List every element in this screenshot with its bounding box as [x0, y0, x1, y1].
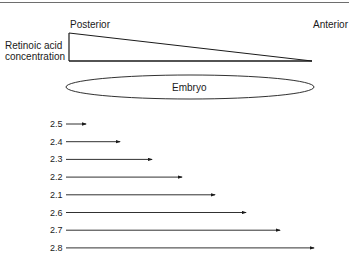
arrow-label: 2.1	[50, 190, 63, 200]
arrow-label: 2.5	[50, 119, 63, 129]
arrow-label: 2.4	[50, 137, 63, 147]
arrow-label: 2.6	[50, 208, 63, 218]
arrow-group	[66, 124, 314, 248]
arrow-label: 2.8	[50, 243, 63, 253]
embryo-label: Embryo	[172, 82, 206, 94]
arrow-label: 2.7	[50, 225, 63, 235]
arrow-label: 2.2	[50, 172, 63, 182]
arrow-label: 2.3	[50, 154, 63, 164]
concentration-gradient-wedge	[69, 33, 312, 61]
